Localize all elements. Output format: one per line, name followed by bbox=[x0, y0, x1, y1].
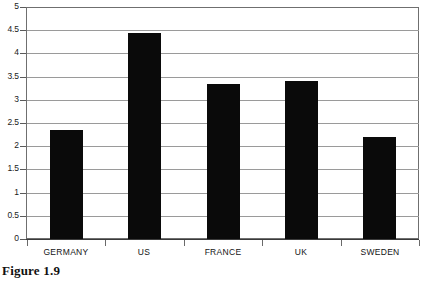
x-axis-line bbox=[26, 239, 419, 240]
bar bbox=[207, 84, 240, 239]
figure-caption: Figure 1.9 bbox=[2, 263, 60, 279]
x-axis-tick-mark bbox=[419, 240, 420, 246]
x-axis-category-label: GERMANY bbox=[27, 247, 105, 258]
bar-chart: 00.511.522.533.544.55 GERMANYUSFRANCEUKS… bbox=[0, 0, 423, 260]
x-axis-tick-mark bbox=[105, 240, 106, 246]
bar bbox=[128, 33, 161, 239]
figure-container: 00.511.522.533.544.55 GERMANYUSFRANCEUKS… bbox=[0, 0, 423, 283]
bar bbox=[50, 130, 83, 239]
x-axis-category-label: US bbox=[105, 247, 183, 258]
x-axis-tick-mark bbox=[341, 240, 342, 246]
x-axis-tick-mark bbox=[27, 240, 28, 246]
x-axis-category-label: UK bbox=[262, 247, 340, 258]
bar bbox=[285, 81, 318, 239]
x-axis-tick-mark bbox=[184, 240, 185, 246]
x-axis-tick-mark bbox=[262, 240, 263, 246]
bars-layer bbox=[0, 0, 423, 239]
bar bbox=[363, 137, 396, 239]
x-axis-category-label: SWEDEN bbox=[341, 247, 419, 258]
x-axis-category-label: FRANCE bbox=[184, 247, 262, 258]
